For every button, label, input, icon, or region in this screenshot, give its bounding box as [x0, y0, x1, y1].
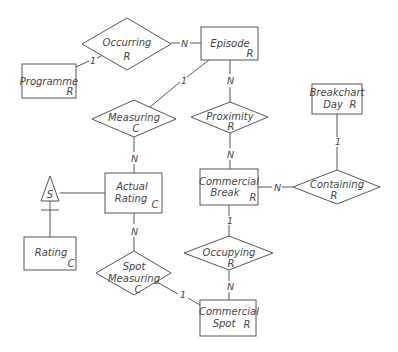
entity-programme: Programme R [20, 64, 78, 98]
entity-label-line2: Break [210, 187, 240, 198]
entity-label-line1: Breakchart [309, 87, 365, 98]
entity-label-line2: Day [323, 99, 344, 110]
relationship-proximity: Proximity R [191, 102, 268, 133]
cardinality-commercial-break-containing: N [274, 182, 281, 193]
connector-programme-occurring [76, 61, 89, 67]
relationship-label: Occurring [103, 37, 152, 48]
relationship-label-line2: Measuring [108, 273, 160, 284]
relationship-type-tag: C [133, 123, 140, 134]
entity-label-line2: Rating [115, 193, 147, 204]
entity-label-line1: Commercial [199, 306, 259, 317]
entity-commercial-spot: Commercial Spot R [199, 300, 259, 336]
connector-episode-measuring [187, 60, 209, 77]
relationship-containing: Containing R [293, 170, 380, 204]
entity-label-line1: Actual [115, 181, 148, 192]
relationship-measuring: Measuring C [92, 100, 176, 137]
relationship-type-tag: R [331, 190, 338, 201]
cardinality-actual-rating-spot-measuring: N [131, 226, 138, 237]
relationship-type-tag: R [228, 258, 235, 269]
relationship-label-line1: Spot [123, 261, 147, 272]
er-diagram-svg: 1 N 1 N N N 1 N 1 N N 1 Occurring R Meas… [0, 0, 398, 352]
relationship-occupying: Occupying R [184, 236, 273, 270]
entity-type-tag: R [244, 319, 251, 330]
entity-label: Rating [35, 247, 67, 258]
cardinality-spot-measuring-commercial-spot: 1 [180, 289, 186, 300]
subtype-indicator: S [41, 176, 59, 201]
entity-episode: Episode R [201, 27, 258, 60]
cardinality-episode-measuring: 1 [181, 75, 187, 86]
entity-breakchart-day: Breakchart Day R [309, 84, 365, 114]
entity-rating: Rating C [24, 237, 76, 270]
entity-label-line2: Spot [213, 318, 237, 329]
entity-type-tag: C [68, 258, 75, 269]
entity-label-line1: Commercial [199, 176, 259, 187]
cardinality-measuring-actual-rating: N [131, 153, 138, 164]
entity-label: Episode [210, 38, 249, 49]
cardinality-episode-proximity: N [227, 75, 234, 86]
subtype-symbol: S [47, 189, 54, 200]
cardinality-proximity-commercial-break: N [227, 149, 234, 160]
relationship-spot-measuring: Spot Measuring C [96, 251, 171, 295]
relationship-label: Containing [310, 179, 364, 190]
relationship-type-tag: R [124, 51, 131, 62]
entity-type-tag: R [250, 192, 257, 203]
cardinality-programme-occurring: 1 [90, 55, 96, 66]
entity-commercial-break: Commercial Break R [199, 169, 259, 205]
cardinality-occupying-commercial-spot: N [227, 281, 234, 292]
entity-type-tag: R [67, 86, 74, 97]
relationship-type-tag: R [228, 121, 235, 132]
cardinality-commercial-break-occupying: 1 [227, 215, 233, 226]
entity-type-tag: C [152, 199, 159, 210]
entity-type-tag: R [350, 99, 357, 110]
entity-type-tag: R [247, 48, 254, 59]
cardinality-breakchart-containing: 1 [335, 136, 341, 147]
relationship-label: Occupying [203, 247, 256, 258]
entity-actual-rating: Actual Rating C [105, 173, 162, 213]
er-diagram: 1 N 1 N N N 1 N 1 N N 1 Occurring R Meas… [0, 0, 398, 352]
cardinality-occurring-episode: N [181, 38, 188, 49]
relationship-label: Measuring [108, 112, 160, 123]
connector-episode-measuring-2 [150, 82, 180, 107]
connector-spot-measuring-commercial-spot-2 [188, 298, 200, 305]
relationship-type-tag: C [135, 284, 142, 295]
